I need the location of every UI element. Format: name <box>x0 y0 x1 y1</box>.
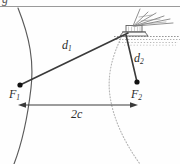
focus-point-left <box>17 82 22 87</box>
ship-antenna-rays <box>133 9 173 26</box>
hyperbola-left-branch-solid <box>14 8 32 164</box>
label-d2: d2 <box>134 52 144 65</box>
label-focus-1: F1 <box>9 88 20 101</box>
hyperbola-navigation-figure: g <box>0 0 180 164</box>
label-focus-2: F2 <box>131 88 142 101</box>
figure-canvas <box>0 0 180 164</box>
water-surface-waves <box>114 37 180 46</box>
label-focal-distance: 2c <box>71 108 82 120</box>
label-d1: d1 <box>62 39 72 52</box>
distance-segment-d1 <box>20 33 128 85</box>
focus-point-right <box>134 79 139 84</box>
